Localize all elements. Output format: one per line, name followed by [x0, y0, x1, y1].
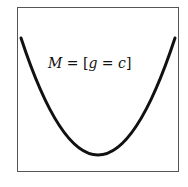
label-eq1: = [ [62, 55, 88, 71]
label-lhs: M [48, 55, 62, 71]
label-var2: c [118, 55, 126, 71]
label-close: ] [126, 55, 131, 71]
parabola-curve [0, 0, 188, 187]
equation-label: M = [g = c] [48, 55, 131, 71]
label-eq2: = [97, 55, 118, 71]
